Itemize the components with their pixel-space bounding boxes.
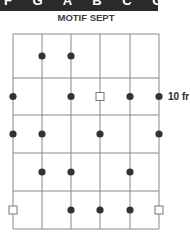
note-dot-marker <box>67 206 74 213</box>
note-dot-marker <box>155 130 162 137</box>
root-square-marker <box>9 206 17 214</box>
note-dot-marker <box>126 93 133 100</box>
note-dot-marker <box>9 130 16 137</box>
fretboard-diagram <box>0 0 190 239</box>
note-dot-marker <box>9 93 16 100</box>
root-square-marker <box>155 206 163 214</box>
fret-position-label: 10 fr <box>168 91 189 102</box>
note-dot-marker <box>38 130 45 137</box>
note-dot-marker <box>96 130 103 137</box>
fretboard-markers <box>9 52 163 214</box>
fretboard-grid <box>13 34 159 229</box>
note-dot-marker <box>38 168 45 175</box>
note-dot-marker <box>67 52 74 59</box>
note-dot-marker <box>67 168 74 175</box>
note-dot-marker <box>155 93 162 100</box>
note-dot-marker <box>126 168 133 175</box>
note-dot-marker <box>126 206 133 213</box>
note-dot-marker <box>38 52 45 59</box>
root-square-marker <box>96 93 104 101</box>
note-dot-marker <box>67 93 74 100</box>
note-dot-marker <box>96 206 103 213</box>
